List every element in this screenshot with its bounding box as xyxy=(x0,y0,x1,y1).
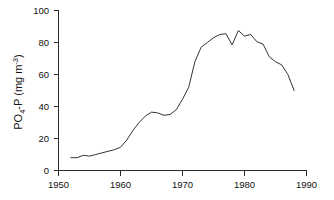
y-axis-title-tail: ) xyxy=(12,54,24,58)
y-axis-title-lead: PO xyxy=(12,113,24,129)
x-tick-label-1980: 1980 xyxy=(234,179,255,190)
x-tick-label-1950: 1950 xyxy=(48,179,69,190)
y-axis-tick-labels: 0 20 40 60 80 100 xyxy=(33,5,49,176)
y-axis-title: PO4-P (mg m-3) xyxy=(11,54,27,129)
y-tick-label-40: 40 xyxy=(38,101,49,112)
y-axis-title-superscript: -3 xyxy=(11,58,20,65)
x-axis-tick-labels: 1950 1960 1970 1980 1990 xyxy=(48,179,317,190)
x-tick-label-1960: 1960 xyxy=(110,179,131,190)
y-tick-label-80: 80 xyxy=(38,37,49,48)
y-tick-label-0: 0 xyxy=(44,165,49,176)
svg-text:PO4-P (mg m-3): PO4-P (mg m-3) xyxy=(11,54,27,129)
x-axis-ticks xyxy=(59,171,307,176)
data-series-line xyxy=(71,31,294,158)
y-tick-label-20: 20 xyxy=(38,133,49,144)
y-tick-label-100: 100 xyxy=(33,5,49,16)
x-tick-label-1970: 1970 xyxy=(172,179,193,190)
x-tick-label-1990: 1990 xyxy=(296,179,317,190)
chart-figure: 0 20 40 60 80 100 1950 1960 1970 1980 19… xyxy=(0,0,334,200)
y-axis-title-mid: -P (mg m xyxy=(12,65,24,110)
y-tick-label-60: 60 xyxy=(38,69,49,80)
y-axis-ticks xyxy=(54,11,59,171)
chart-canvas: 0 20 40 60 80 100 1950 1960 1970 1980 19… xyxy=(0,0,334,200)
